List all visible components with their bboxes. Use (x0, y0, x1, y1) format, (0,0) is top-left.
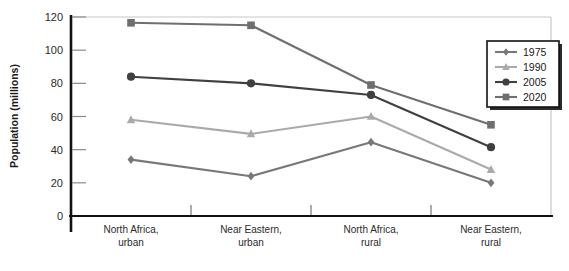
series-line (131, 23, 491, 125)
legend-label: 1975 (523, 46, 547, 58)
y-tick-label: 100 (45, 44, 63, 56)
chart-canvas: 020406080100120 Population (millions) No… (0, 0, 569, 271)
square-marker (247, 21, 255, 29)
diamond-marker (488, 178, 495, 187)
triangle-marker (367, 112, 375, 120)
series-1975 (128, 138, 495, 187)
diamond-marker (248, 172, 255, 181)
y-axis-title: Population (millions) (8, 64, 20, 168)
x-tick-label: North Africa, (103, 224, 158, 235)
y-tick-label: 20 (51, 177, 63, 189)
chart-legend: 1975199020052020 (487, 41, 562, 110)
circle-marker (487, 143, 495, 151)
x-axis-tick-labels: North Africa,urbanNear Eastern,urbanNort… (103, 224, 521, 248)
x-tick-label: Near Eastern, (220, 224, 282, 235)
square-marker (503, 94, 510, 101)
diamond-marker (128, 155, 135, 164)
square-marker (367, 81, 375, 89)
circle-marker (502, 78, 509, 85)
series-2020 (127, 19, 495, 129)
x-tick-label: urban (238, 237, 264, 248)
y-tick-label: 80 (51, 77, 63, 89)
y-tick-label: 0 (57, 210, 63, 222)
x-axis-ticks (191, 205, 431, 215)
series-layer (127, 19, 495, 187)
x-tick-label: rural (361, 237, 381, 248)
legend-label: 1990 (523, 61, 547, 73)
line-chart: 020406080100120 Population (millions) No… (0, 0, 569, 271)
circle-marker (367, 91, 375, 99)
y-tick-label: 120 (45, 11, 63, 23)
plot-frame (71, 17, 551, 216)
diamond-marker (368, 138, 375, 147)
series-line (131, 142, 491, 183)
series-line (131, 77, 491, 147)
circle-marker (127, 73, 135, 81)
circle-marker (247, 79, 255, 87)
y-tick-label: 60 (51, 111, 63, 123)
x-tick-label: Near Eastern, (460, 224, 522, 235)
legend-label: 2005 (523, 76, 547, 88)
series-1990 (127, 112, 495, 173)
series-2005 (127, 73, 495, 152)
y-tick-label: 40 (51, 144, 63, 156)
x-tick-label: rural (481, 237, 501, 248)
y-axis-tick-labels: 020406080100120 (45, 11, 63, 222)
y-axis-ticks (72, 17, 86, 183)
square-marker (487, 121, 495, 129)
legend-label: 2020 (523, 91, 547, 103)
x-tick-label: North Africa, (343, 224, 398, 235)
x-tick-label: urban (118, 237, 144, 248)
square-marker (127, 19, 135, 27)
